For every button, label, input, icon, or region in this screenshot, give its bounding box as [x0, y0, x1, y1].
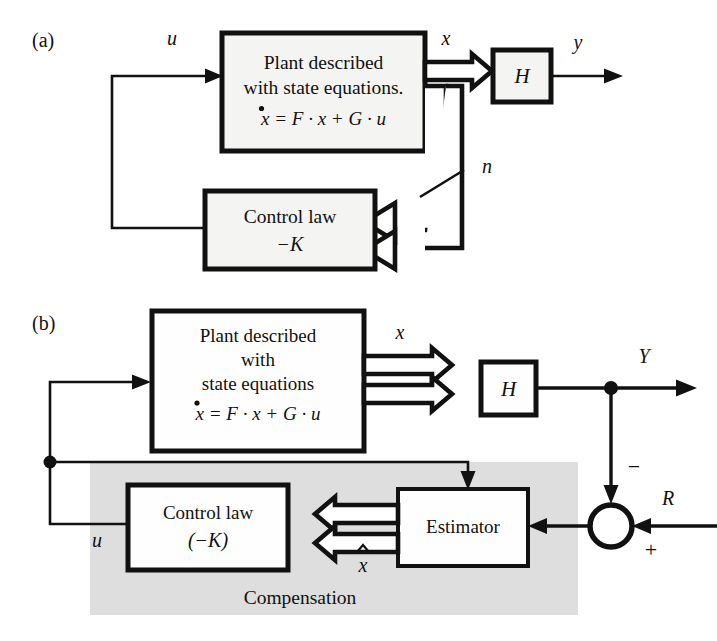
arrowhead-y	[604, 69, 623, 84]
signal-label-y: y	[572, 31, 583, 54]
block-control-law-a: Control law −K	[205, 191, 375, 269]
signal-label-x-a: x	[441, 27, 451, 49]
block-plant-a-line2: with state equations.	[244, 77, 404, 98]
figure-root: (a) u Plant described with state equatio…	[0, 0, 717, 641]
block-plant-b-equation-text: x = F · x + G · u	[195, 403, 321, 424]
wire-Y-to-sum	[604, 388, 619, 504]
block-control-law-b: Control law (−K)	[128, 485, 288, 570]
block-H-b: H	[481, 362, 536, 415]
block-H-a-label: H	[513, 64, 531, 88]
panel-a: (a) u Plant described with state equatio…	[32, 27, 623, 269]
block-plant-a-line1: Plant described	[264, 52, 384, 73]
panel-b-label: (b)	[32, 312, 55, 335]
bus-x-to-H-a	[425, 54, 492, 88]
signal-label-n: n	[482, 155, 492, 177]
block-control-law-a-gain: −K	[277, 233, 305, 255]
block-control-law-b-gain: (−K)	[188, 529, 228, 552]
block-H-a: H	[493, 50, 551, 102]
bus-state-feedback-a	[425, 86, 462, 248]
region-compensation-label: Compensation	[244, 587, 357, 608]
block-plant-b: Plant described with state equations x =…	[152, 311, 364, 451]
block-estimator-label: Estimator	[426, 516, 501, 537]
block-plant-b-line2: with	[241, 349, 275, 370]
panel-b: (b) Compensation Plant described with st…	[32, 311, 717, 615]
block-plant-b-line3: state equations	[202, 373, 314, 394]
block-H-b-label: H	[500, 377, 518, 401]
panel-a-label: (a)	[32, 29, 54, 52]
block-control-law-a-label: Control law	[244, 206, 337, 227]
wire-R-to-sum	[632, 518, 717, 534]
arrowhead-sum-minus	[604, 485, 619, 504]
signal-label-u-b: u	[92, 529, 102, 551]
block-estimator: Estimator	[398, 489, 528, 566]
block-plant-b-line1: Plant described	[200, 325, 317, 346]
sum-minus-sign: −	[628, 454, 640, 479]
signal-label-x-b: x	[395, 321, 405, 343]
signal-label-xhat: x	[358, 554, 368, 576]
summing-junction	[590, 505, 632, 547]
signal-label-u: u	[167, 27, 177, 49]
block-plant-b-equation: x = F · x + G · u	[194, 400, 320, 424]
bus-x-to-H-b	[364, 348, 452, 411]
signal-label-Y: Y	[638, 345, 651, 367]
block-control-law-b-label: Control law	[163, 502, 254, 523]
sum-plus-sign: +	[645, 537, 657, 562]
block-plant-a: Plant described with state equations. x …	[222, 33, 425, 151]
output-wire-Y	[536, 380, 697, 397]
block-plant-a-equation-text: x = F · x + G · u	[260, 108, 386, 129]
arrowhead-sum-plus	[632, 518, 651, 534]
arrowhead-plant-input-b	[132, 375, 151, 390]
arrowhead-Y	[676, 380, 697, 397]
signal-label-R: R	[661, 487, 674, 509]
output-wire-y-a	[551, 69, 623, 84]
block-plant-a-equation: x = F · x + G · u	[259, 106, 386, 129]
block-diagram-svg: (a) u Plant described with state equatio…	[0, 0, 717, 641]
